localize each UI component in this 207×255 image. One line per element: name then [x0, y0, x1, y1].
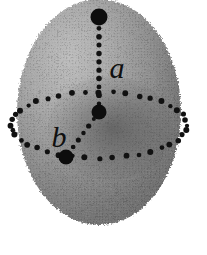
- equator-dot: [174, 107, 180, 113]
- equator-dot: [158, 98, 164, 104]
- axis-a-dot: [97, 26, 102, 31]
- equator-dot: [46, 96, 51, 101]
- axis-a-dot: [96, 43, 101, 48]
- equator-dot: [137, 153, 142, 158]
- axis-label-b: b: [52, 120, 67, 153]
- equator-dot: [9, 117, 14, 122]
- equator-dot: [26, 103, 30, 107]
- center-point-marker: [92, 105, 107, 120]
- equator-dot: [17, 108, 23, 114]
- equator-dot: [168, 104, 172, 108]
- axis-a-dot: [96, 68, 101, 73]
- equator-dot: [182, 117, 188, 123]
- axis-label-a: a: [110, 51, 125, 84]
- equator-dot: [81, 154, 87, 160]
- axis-b-dot: [71, 145, 76, 150]
- axis-a-dot: [96, 92, 102, 98]
- equator-dot: [111, 90, 116, 95]
- axis-a-dot: [97, 85, 102, 90]
- equator-dot: [176, 138, 182, 144]
- axis-a-dot: [96, 59, 101, 64]
- equator-dot: [33, 98, 39, 104]
- axis-a-dot: [96, 76, 102, 82]
- equator-dot: [147, 149, 153, 155]
- equator-dot: [160, 145, 165, 150]
- equator-dot: [148, 96, 153, 101]
- equator-dot: [122, 90, 128, 96]
- axis-b-dot: [76, 137, 81, 142]
- equator-dot: [13, 112, 18, 117]
- equator-dot: [179, 132, 184, 137]
- equator-dot: [166, 142, 172, 148]
- axis-a-dot: [96, 51, 101, 56]
- ellipsoid-figure-svg: a b: [0, 0, 207, 255]
- axis-a-dot: [96, 34, 102, 40]
- equator-dot: [181, 111, 186, 116]
- equator-dot: [19, 138, 24, 143]
- equator-dot: [124, 153, 130, 159]
- equator-dot: [24, 142, 30, 148]
- equator-dot: [34, 145, 40, 151]
- equator-dot: [8, 123, 14, 129]
- equator-dot: [56, 93, 62, 99]
- ellipsoid-diagram-canvas: a b: [0, 0, 207, 255]
- equator-dot: [83, 90, 88, 95]
- equator-dot: [45, 149, 50, 154]
- equator-dot: [137, 94, 142, 99]
- equator-dot: [183, 127, 189, 133]
- equator-dot: [69, 90, 75, 96]
- equator-dot: [109, 155, 115, 161]
- axis-b-dot: [86, 123, 91, 128]
- equator-dot: [97, 156, 102, 161]
- axis-b-dot: [81, 131, 85, 135]
- pole-point-marker: [91, 9, 108, 26]
